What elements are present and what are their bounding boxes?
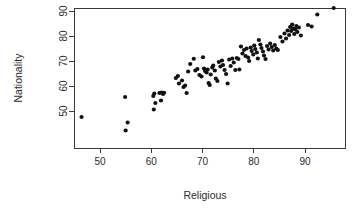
data-point [124,128,128,132]
data-point [123,95,127,99]
y-tick-label: 80 [58,30,69,42]
data-point [152,91,156,95]
x-tick-label: 60 [146,156,158,167]
y-tick-label: 70 [58,55,69,67]
data-point [199,74,203,78]
data-point [276,48,280,52]
data-point [192,57,196,61]
y-tick-label: 90 [58,5,69,17]
data-point [208,83,212,87]
plot-background [0,0,360,214]
data-point [152,107,156,111]
data-point [159,98,163,102]
data-point [126,120,130,124]
data-point [220,58,224,62]
data-point [236,57,240,61]
data-point [239,44,243,48]
x-tick-label: 80 [248,156,260,167]
data-point [188,62,192,66]
data-point [195,67,199,71]
data-point [257,38,261,42]
data-point [237,67,241,71]
data-point [224,72,228,76]
data-point [162,91,166,95]
data-point [230,56,234,60]
data-point [255,50,259,54]
data-point [201,55,205,59]
data-point [226,81,230,85]
data-point [299,33,303,37]
data-point [180,78,184,82]
data-point [251,52,255,56]
data-point [221,63,225,67]
data-point [213,68,217,72]
data-point [295,30,299,34]
data-point [278,35,282,39]
data-point [229,64,233,68]
data-point [153,101,157,105]
x-axis-title: Religious [183,189,226,201]
data-point [263,57,267,61]
y-axis-title: Nationality [12,53,24,103]
x-tick-label: 90 [299,156,311,167]
y-tick-label: 60 [58,80,69,92]
data-point [256,56,260,60]
data-point [282,31,286,35]
data-point [232,60,236,64]
data-point [287,33,291,37]
plot-canvas: 5060708090 5060708090 Religious National… [0,0,360,214]
x-tick-label: 70 [197,156,209,167]
data-point [222,68,226,72]
data-point [310,24,314,28]
data-point [284,36,288,40]
data-point [244,46,248,50]
data-point [211,63,215,67]
data-point [233,68,237,72]
data-point [209,72,213,76]
y-tick-label: 50 [58,105,69,117]
data-point [261,49,265,53]
data-point [297,25,301,29]
data-point [306,23,310,27]
data-point [177,81,181,85]
data-point [186,69,190,73]
x-tick-label: 50 [94,156,106,167]
data-point [247,59,251,63]
data-point [215,79,219,83]
data-point [290,22,294,26]
data-point [206,67,210,71]
data-point [332,6,336,10]
data-point [315,12,319,16]
data-point [79,115,83,119]
data-point [176,74,180,78]
data-point [285,28,289,32]
data-point [280,39,284,43]
data-point [185,91,189,95]
data-point [183,83,187,87]
